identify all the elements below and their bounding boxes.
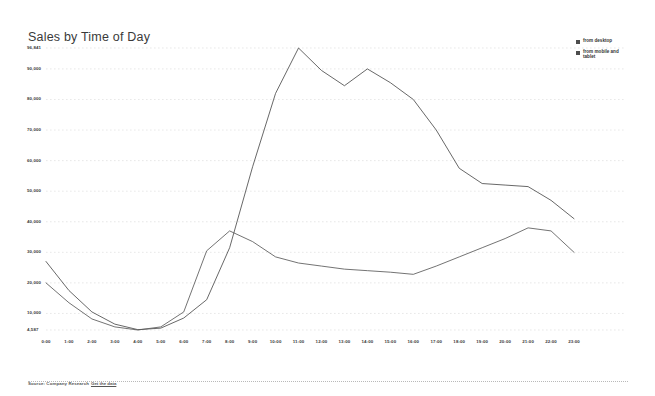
x-axis-tick-label: 5:00 <box>156 339 165 344</box>
x-axis-tick-label: 1:00 <box>64 339 73 344</box>
chart-card: Sales by Time of Day from desktop from m… <box>0 0 655 396</box>
x-axis-tick-label: 14:00 <box>362 339 374 344</box>
x-axis-tick-label: 11:00 <box>293 339 305 344</box>
x-axis-tick-label: 16:00 <box>407 339 419 344</box>
x-axis-tick-label: 21:00 <box>522 339 534 344</box>
x-axis-tick-label: 7:00 <box>202 339 211 344</box>
y-axis-tick-label: 50,000 <box>27 188 41 193</box>
y-axis-tick-label: 80,000 <box>27 96 41 101</box>
y-axis-tick-label: 90,000 <box>27 66 41 71</box>
x-axis-tick-label: 12:00 <box>316 339 328 344</box>
x-axis-tick-label: 22:00 <box>545 339 557 344</box>
y-axis-tick-label: 96,841 <box>27 45 41 50</box>
x-axis-tick-label: 8:00 <box>225 339 234 344</box>
gridlines <box>46 48 624 330</box>
y-axis-tick-label: 30,000 <box>27 249 41 254</box>
y-axis-tick-label: 10,000 <box>27 310 41 315</box>
x-axis-tick-label: 2:00 <box>87 339 96 344</box>
x-axis-tick-label: 13:00 <box>339 339 351 344</box>
y-axis-tick-label: 4,587 <box>27 327 39 332</box>
y-axis-tick-label: 40,000 <box>27 219 41 224</box>
x-axis-tick-label: 6:00 <box>179 339 188 344</box>
plot-area: 96,84190,00080,00070,00060,00050,00040,0… <box>0 0 655 396</box>
footer-divider <box>28 381 628 382</box>
x-axis-tick-label: 17:00 <box>430 339 442 344</box>
series-line-desktop <box>46 48 574 330</box>
x-axis-tick-label: 4:00 <box>133 339 142 344</box>
y-axis-tick-label: 70,000 <box>27 127 41 132</box>
x-axis-tick-label: 3:00 <box>110 339 119 344</box>
chart-canvas <box>0 0 655 396</box>
x-axis-tick-label: 18:00 <box>453 339 465 344</box>
series-line-mobile <box>46 228 574 330</box>
series-lines <box>46 48 574 330</box>
x-axis-tick-label: 0:00 <box>41 339 50 344</box>
x-axis-tick-label: 10:00 <box>270 339 282 344</box>
x-axis-tick-label: 23:00 <box>568 339 580 344</box>
x-axis-tick-label: 20:00 <box>499 339 511 344</box>
y-axis-tick-label: 60,000 <box>27 158 41 163</box>
x-axis-tick-label: 19:00 <box>476 339 488 344</box>
chart-footer: Source: Company ResearchGet the data <box>28 371 628 389</box>
x-axis-tick-label: 9:00 <box>248 339 257 344</box>
x-axis-tick-label: 15:00 <box>384 339 396 344</box>
y-axis-tick-label: 20,000 <box>27 280 41 285</box>
